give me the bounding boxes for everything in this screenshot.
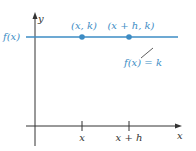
point-label-x-plus-h-k: (x + h, k) — [107, 20, 154, 31]
y-axis-arrow-icon — [33, 12, 38, 19]
point-x-plus-h-k — [126, 34, 132, 40]
equation-label: f(x) = k — [123, 57, 162, 68]
y-axis-label: y — [37, 13, 44, 24]
x-axis-label: x — [177, 130, 183, 141]
tick-label-x-plus-h: x + h — [116, 132, 143, 143]
point-x-k — [79, 34, 85, 40]
constant-function-diagram: y x x x + h f(x) (x, k) (x + h, k) f(x) … — [0, 0, 196, 151]
tick-label-x: x — [79, 132, 85, 143]
f-of-x-label: f(x) — [2, 31, 20, 42]
point-label-x-k: (x, k) — [71, 20, 97, 31]
x-axis-arrow-icon — [175, 124, 182, 129]
